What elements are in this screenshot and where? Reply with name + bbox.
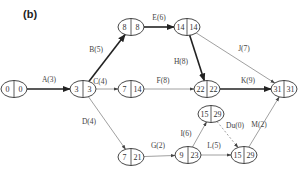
event-node: 714 — [118, 81, 144, 98]
early-time: 31 — [274, 85, 282, 94]
late-time: 29 — [214, 110, 222, 119]
early-time: 14 — [177, 23, 185, 32]
edge-label: H(8) — [174, 57, 189, 66]
edge-label: C(4) — [93, 77, 107, 86]
late-time: 29 — [247, 151, 255, 160]
edge-label: K(9) — [241, 76, 256, 85]
edge-label: M(2) — [251, 120, 267, 129]
late-time: 22 — [210, 85, 218, 94]
edge-label: G(2) — [151, 141, 166, 150]
early-time: 15 — [234, 151, 242, 160]
edge-g — [144, 155, 175, 156]
event-node: 00 — [1, 81, 27, 98]
event-node: 1414 — [174, 19, 200, 36]
early-time: 7 — [123, 85, 127, 94]
early-time: 3 — [75, 85, 79, 94]
edge-label: L(5) — [207, 141, 221, 150]
early-time: 9 — [180, 151, 184, 160]
edge-h — [190, 35, 205, 80]
edge-label: Du(0) — [226, 121, 244, 130]
event-node: 1529 — [231, 147, 257, 164]
event-node: 3131 — [271, 81, 297, 98]
edge-label: E(6) — [152, 13, 166, 22]
edge-j — [196, 33, 274, 83]
early-time: 7 — [123, 153, 127, 162]
edge-label: D(4) — [82, 117, 97, 126]
edge-label: I(6) — [180, 129, 192, 138]
network-diagram: A(3)B(5)C(4)D(4)E(6)F(8)H(8)J(7)K(9)G(2)… — [0, 0, 298, 178]
event-node: 33 — [70, 81, 96, 98]
edge-label: B(5) — [89, 45, 103, 54]
event-node: 1529 — [198, 106, 224, 123]
early-time: 22 — [197, 85, 205, 94]
event-node: 88 — [118, 19, 144, 36]
edge-label: J(7) — [238, 44, 250, 53]
early-time: 0 — [6, 85, 10, 94]
edge-i — [192, 122, 206, 147]
event-node: 721 — [118, 149, 144, 166]
event-node: 2222 — [194, 81, 220, 98]
edge-label: F(8) — [157, 76, 170, 85]
late-time: 14 — [134, 85, 142, 94]
late-time: 0 — [19, 85, 23, 94]
event-node: 923 — [175, 147, 201, 164]
late-time: 8 — [136, 23, 140, 32]
late-time: 3 — [88, 85, 92, 94]
late-time: 21 — [134, 153, 142, 162]
early-time: 15 — [201, 110, 209, 119]
late-time: 14 — [190, 23, 198, 32]
late-time: 23 — [191, 151, 199, 160]
late-time: 31 — [287, 85, 295, 94]
early-time: 8 — [123, 23, 127, 32]
edge-label: A(3) — [42, 75, 57, 84]
edge-b — [89, 35, 125, 82]
